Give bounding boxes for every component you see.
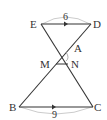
point-label-m: M <box>40 58 50 70</box>
parallel-mark-ed <box>64 22 68 27</box>
point-label-b: B <box>9 101 16 113</box>
point-label-d: D <box>93 18 101 30</box>
point-label-n: N <box>71 58 79 70</box>
point-label-c: C <box>94 101 101 113</box>
geometry-diagram: E D A M N B C 6 9 <box>0 0 107 120</box>
length-label-ed: 6 <box>63 11 68 22</box>
point-label-a: A <box>74 42 82 54</box>
point-label-e: E <box>30 18 37 30</box>
angle-arc-a <box>66 52 68 61</box>
length-label-bc: 9 <box>52 109 57 120</box>
segment-db <box>19 24 91 107</box>
